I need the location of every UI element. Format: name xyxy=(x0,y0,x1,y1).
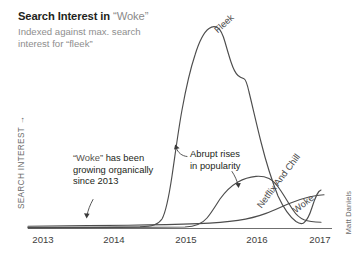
chart-container: Search Interest in “Woke” Indexed agains… xyxy=(0,0,359,265)
annotation-woke-growth-quoted: “Woke” xyxy=(73,152,103,163)
series-line-fleek xyxy=(28,27,321,228)
leader-arrowhead-abrupt-right xyxy=(235,183,241,188)
annotation-woke-growth: “Woke” has been growing organically sinc… xyxy=(73,152,159,187)
leader-line-abrupt-left xyxy=(176,148,187,157)
x-tick-2017: 2017 xyxy=(309,234,330,245)
leader-line-woke-growth xyxy=(87,200,93,216)
x-tick-2013: 2013 xyxy=(32,234,53,245)
x-tick-2014: 2014 xyxy=(103,234,124,245)
leader-line-abrupt-right xyxy=(232,172,238,186)
x-tick-2016: 2016 xyxy=(246,234,267,245)
leader-arrowhead-woke-growth xyxy=(84,213,90,218)
plot-area xyxy=(0,0,359,265)
annotation-abrupt-rises: Abrupt rises in popularity xyxy=(190,148,282,171)
x-tick-2015: 2015 xyxy=(175,234,196,245)
author-credit: Matt Daniels xyxy=(344,183,353,243)
